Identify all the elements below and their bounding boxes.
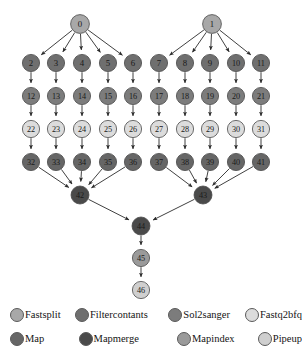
node-23[interactable]: 23 bbox=[47, 120, 64, 137]
node-13[interactable]: 13 bbox=[47, 87, 64, 104]
node-circle-23[interactable] bbox=[47, 120, 64, 137]
node-circle-45[interactable] bbox=[132, 249, 149, 266]
node-12[interactable]: 12 bbox=[22, 87, 39, 104]
node-15[interactable]: 15 bbox=[99, 87, 116, 104]
node-35[interactable]: 35 bbox=[99, 153, 116, 170]
node-circle-17[interactable] bbox=[150, 87, 167, 104]
node-circle-29[interactable] bbox=[201, 120, 218, 137]
legend-item-filtercontants[interactable]: Filtercontants bbox=[75, 308, 168, 322]
node-circle-9[interactable] bbox=[201, 54, 218, 71]
node-circle-31[interactable] bbox=[252, 120, 269, 137]
node-circle-27[interactable] bbox=[150, 120, 167, 137]
node-31[interactable]: 31 bbox=[252, 120, 269, 137]
node-8[interactable]: 8 bbox=[176, 54, 193, 71]
node-circle-16[interactable] bbox=[124, 87, 141, 104]
node-circle-19[interactable] bbox=[201, 87, 218, 104]
node-37[interactable]: 37 bbox=[150, 153, 167, 170]
node-21[interactable]: 21 bbox=[252, 87, 269, 104]
node-39[interactable]: 39 bbox=[201, 153, 218, 170]
node-circle-42[interactable] bbox=[71, 186, 89, 204]
node-18[interactable]: 18 bbox=[176, 87, 193, 104]
legend-item-mapindex[interactable]: Mapindex bbox=[177, 332, 258, 346]
legend-item-sol2sanger[interactable]: Sol2sanger bbox=[168, 308, 245, 322]
node-circle-46[interactable] bbox=[132, 281, 149, 298]
node-circle-40[interactable] bbox=[227, 153, 244, 170]
node-circle-15[interactable] bbox=[99, 87, 116, 104]
node-circle-14[interactable] bbox=[73, 87, 90, 104]
node-28[interactable]: 28 bbox=[176, 120, 193, 137]
node-44[interactable]: 44 bbox=[132, 217, 150, 235]
legend-item-fastq2bfq[interactable]: Fastq2bfq bbox=[245, 308, 302, 322]
node-19[interactable]: 19 bbox=[201, 87, 218, 104]
node-24[interactable]: 24 bbox=[73, 120, 90, 137]
node-16[interactable]: 16 bbox=[124, 87, 141, 104]
node-0[interactable]: 0 bbox=[71, 15, 90, 34]
node-circle-44[interactable] bbox=[132, 217, 150, 235]
node-circle-39[interactable] bbox=[201, 153, 218, 170]
node-circle-0[interactable] bbox=[71, 15, 90, 34]
node-1[interactable]: 1 bbox=[203, 15, 222, 34]
legend-item-map[interactable]: Map bbox=[10, 332, 79, 346]
node-circle-32[interactable] bbox=[22, 153, 39, 170]
node-27[interactable]: 27 bbox=[150, 120, 167, 137]
node-circle-1[interactable] bbox=[203, 15, 222, 34]
node-circle-24[interactable] bbox=[73, 120, 90, 137]
node-circle-21[interactable] bbox=[252, 87, 269, 104]
node-circle-22[interactable] bbox=[22, 120, 39, 137]
node-45[interactable]: 45 bbox=[132, 249, 149, 266]
legend-item-mapmerge[interactable]: Mapmerge bbox=[79, 332, 177, 346]
node-circle-5[interactable] bbox=[99, 54, 116, 71]
node-14[interactable]: 14 bbox=[73, 87, 90, 104]
node-circle-26[interactable] bbox=[124, 120, 141, 137]
node-6[interactable]: 6 bbox=[124, 54, 141, 71]
node-circle-10[interactable] bbox=[227, 54, 244, 71]
node-circle-13[interactable] bbox=[47, 87, 64, 104]
node-11[interactable]: 11 bbox=[252, 54, 269, 71]
node-circle-30[interactable] bbox=[227, 120, 244, 137]
node-34[interactable]: 34 bbox=[73, 153, 90, 170]
node-10[interactable]: 10 bbox=[227, 54, 244, 71]
node-circle-37[interactable] bbox=[150, 153, 167, 170]
node-circle-11[interactable] bbox=[252, 54, 269, 71]
node-circle-12[interactable] bbox=[22, 87, 39, 104]
node-40[interactable]: 40 bbox=[227, 153, 244, 170]
node-circle-4[interactable] bbox=[73, 54, 90, 71]
node-circle-43[interactable] bbox=[194, 186, 212, 204]
node-5[interactable]: 5 bbox=[99, 54, 116, 71]
node-circle-35[interactable] bbox=[99, 153, 116, 170]
legend-item-fastsplit[interactable]: Fastsplit bbox=[10, 308, 75, 322]
node-32[interactable]: 32 bbox=[22, 153, 39, 170]
node-9[interactable]: 9 bbox=[201, 54, 218, 71]
node-circle-7[interactable] bbox=[150, 54, 167, 71]
node-circle-20[interactable] bbox=[227, 87, 244, 104]
node-22[interactable]: 22 bbox=[22, 120, 39, 137]
node-circle-33[interactable] bbox=[47, 153, 64, 170]
node-circle-38[interactable] bbox=[176, 153, 193, 170]
node-circle-6[interactable] bbox=[124, 54, 141, 71]
legend-item-pipeup[interactable]: Pipeup bbox=[258, 332, 302, 346]
node-circle-34[interactable] bbox=[73, 153, 90, 170]
node-46[interactable]: 46 bbox=[132, 281, 149, 298]
node-circle-18[interactable] bbox=[176, 87, 193, 104]
node-circle-8[interactable] bbox=[176, 54, 193, 71]
node-33[interactable]: 33 bbox=[47, 153, 64, 170]
node-4[interactable]: 4 bbox=[73, 54, 90, 71]
node-circle-41[interactable] bbox=[252, 153, 269, 170]
node-3[interactable]: 3 bbox=[47, 54, 64, 71]
node-circle-3[interactable] bbox=[47, 54, 64, 71]
node-20[interactable]: 20 bbox=[227, 87, 244, 104]
node-38[interactable]: 38 bbox=[176, 153, 193, 170]
node-36[interactable]: 36 bbox=[124, 153, 141, 170]
node-41[interactable]: 41 bbox=[252, 153, 269, 170]
node-43[interactable]: 43 bbox=[194, 186, 212, 204]
node-7[interactable]: 7 bbox=[150, 54, 167, 71]
node-circle-36[interactable] bbox=[124, 153, 141, 170]
node-17[interactable]: 17 bbox=[150, 87, 167, 104]
node-circle-2[interactable] bbox=[22, 54, 39, 71]
node-2[interactable]: 2 bbox=[22, 54, 39, 71]
node-25[interactable]: 25 bbox=[99, 120, 116, 137]
node-42[interactable]: 42 bbox=[71, 186, 89, 204]
node-30[interactable]: 30 bbox=[227, 120, 244, 137]
node-29[interactable]: 29 bbox=[201, 120, 218, 137]
node-circle-28[interactable] bbox=[176, 120, 193, 137]
